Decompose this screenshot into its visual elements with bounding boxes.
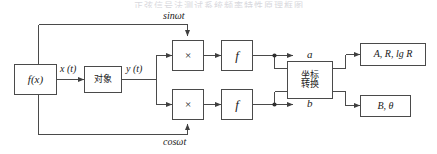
block-integrator-top-label: f bbox=[235, 49, 239, 63]
block-output-amplitude[interactable]: A, R, lg R bbox=[360, 43, 426, 66]
signal-label-x-t: x (t) bbox=[60, 63, 76, 74]
block-output-phase-label: B, θ bbox=[377, 101, 393, 112]
signal-label-b: b bbox=[307, 97, 313, 109]
block-plant-label: 对象 bbox=[94, 75, 113, 84]
signal-label-y-t: y (t) bbox=[126, 63, 142, 74]
figure-top-caption: 正弦信号法测试系统频率特性原理框图 bbox=[0, 0, 437, 8]
block-signal-source-label: f(x) bbox=[28, 74, 43, 86]
junction-dot-b bbox=[272, 102, 276, 106]
block-coordinate-transform[interactable]: 坐标 转换 bbox=[287, 61, 333, 99]
block-multiplier-top-label: × bbox=[185, 50, 191, 62]
signal-label-a: a bbox=[307, 48, 313, 60]
signal-label-sin-wt: sinωt bbox=[163, 10, 185, 21]
block-plant[interactable]: 对象 bbox=[84, 66, 122, 93]
block-integrator-bottom[interactable]: f bbox=[221, 89, 253, 120]
block-multiplier-bottom-label: × bbox=[185, 99, 191, 111]
block-signal-source[interactable]: f(x) bbox=[14, 64, 57, 95]
block-integrator-top[interactable]: f bbox=[221, 40, 253, 71]
block-coordinate-transform-line2: 转换 bbox=[301, 80, 320, 89]
signal-label-cos-wt: cosωt bbox=[163, 136, 186, 147]
wire-layer bbox=[0, 0, 437, 154]
block-multiplier-top[interactable]: × bbox=[172, 40, 204, 71]
diagram-canvas: 正弦信号法测试系统频率特性原理框图 bbox=[0, 0, 437, 154]
block-multiplier-bottom[interactable]: × bbox=[172, 89, 204, 120]
block-output-amplitude-label: A, R, lg R bbox=[374, 49, 413, 60]
block-integrator-bottom-label: f bbox=[235, 98, 239, 112]
junction-dot-a bbox=[272, 53, 276, 57]
block-output-phase[interactable]: B, θ bbox=[360, 95, 411, 117]
